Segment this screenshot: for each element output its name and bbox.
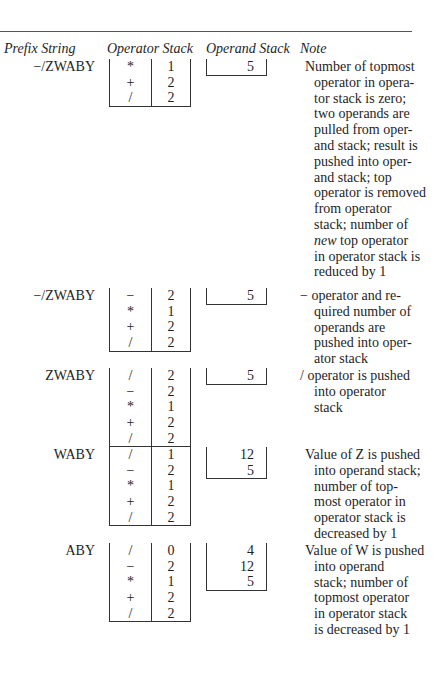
note-line: stack; number of: [300, 575, 441, 591]
prefix-string: −/ZWABY: [0, 288, 95, 304]
operand-stack: 12 5: [206, 447, 267, 479]
operand-value: 5: [207, 288, 266, 304]
operator-row: /0: [110, 543, 190, 559]
operand-stack: 5: [206, 288, 267, 305]
operator-symbol: +: [110, 494, 151, 510]
note-line: Value of Z is pushed: [300, 447, 441, 463]
note-line: ator stack: [300, 351, 441, 367]
step-note: / operator is pushed into operator stack: [300, 368, 441, 415]
operand-count: 0: [152, 543, 190, 559]
operand-count: 2: [152, 288, 190, 304]
note-line: Number of topmost: [300, 59, 441, 75]
operator-symbol: /: [110, 335, 151, 351]
operator-row: −2: [110, 384, 190, 400]
note-line: into operand stack;: [300, 463, 441, 479]
operator-symbol: −: [110, 384, 151, 400]
operand-value: 5: [207, 368, 266, 384]
operator-row: +2: [110, 75, 190, 91]
operator-stack: *1 +2 /2: [109, 59, 191, 107]
note-line: into operand: [300, 559, 441, 575]
note-line: stack: [300, 400, 441, 416]
operator-symbol: +: [110, 590, 151, 606]
operator-row: −2: [110, 288, 190, 304]
step-note: Number of topmost operator in opera- tor…: [300, 59, 441, 280]
operand-count: 1: [152, 478, 190, 494]
step-note: Value of W is pushed into operand stack;…: [300, 543, 441, 638]
operator-symbol: /: [110, 510, 151, 526]
operand-count: 1: [152, 304, 190, 320]
note-line: decreased by 1: [300, 526, 441, 542]
operand-count: 2: [152, 590, 190, 606]
note-line: / operator is pushed: [300, 368, 441, 384]
note-line: topmost operator: [300, 590, 441, 606]
operand-count: 2: [152, 90, 190, 106]
top-rule: [0, 31, 412, 32]
operand-count: 2: [152, 494, 190, 510]
note-line: from operator: [300, 201, 441, 217]
operator-row: +2: [110, 494, 190, 510]
operator-symbol: *: [110, 399, 151, 415]
operator-symbol: /: [110, 368, 151, 384]
operand-value: 12: [207, 559, 266, 575]
prefix-string: ABY: [0, 543, 95, 559]
note-line: operator in opera-: [300, 75, 441, 91]
note-line: is decreased by 1: [300, 622, 441, 638]
operator-row: /2: [110, 368, 190, 384]
operator-symbol: −: [110, 288, 151, 304]
header-operand-stack: Operand Stack: [206, 41, 290, 57]
operator-row: *1: [110, 59, 190, 75]
operand-count: 2: [152, 384, 190, 400]
note-line: and stack; result is: [300, 138, 441, 154]
note-line: stack; number of: [300, 217, 441, 233]
operator-symbol: *: [110, 574, 151, 590]
note-line: in operator stack is: [300, 249, 441, 265]
operator-row: *1: [110, 478, 190, 494]
note-line: and stack; top: [300, 170, 441, 186]
note-line: operands are: [300, 320, 441, 336]
operand-count: 2: [152, 463, 190, 479]
operator-symbol: *: [110, 304, 151, 320]
note-line: operator is removed: [300, 185, 441, 201]
note-line: reduced by 1: [300, 264, 441, 280]
operator-symbol: +: [110, 415, 151, 431]
note-line: most operator in: [300, 494, 441, 510]
operator-row: /2: [110, 510, 190, 526]
operator-row: *1: [110, 304, 190, 320]
operator-symbol: +: [110, 75, 151, 91]
operand-value: 5: [207, 59, 266, 75]
note-line: tor stack is zero;: [300, 91, 441, 107]
operand-value: 12: [207, 447, 266, 463]
note-line: operator stack is: [300, 510, 441, 526]
operator-row: /1: [110, 447, 190, 463]
step-note: − operator and re- quired number of oper…: [300, 288, 441, 367]
operator-stack: /0 −2 *1 +2 /2: [109, 543, 191, 622]
operand-count: 2: [152, 335, 190, 351]
operand-stack: 4 12 5: [206, 543, 267, 591]
note-line: pulled from oper-: [300, 122, 441, 138]
operator-symbol: /: [110, 543, 151, 559]
operator-stack: −2 *1 +2 /2: [109, 288, 191, 352]
operand-count: 2: [152, 368, 190, 384]
operand-value: 4: [207, 543, 266, 559]
operator-symbol: *: [110, 478, 151, 494]
note-line: quired number of: [300, 304, 441, 320]
emphasis-new: new: [314, 233, 337, 248]
operator-row: /2: [110, 431, 190, 447]
operand-count: 2: [152, 559, 190, 575]
operand-count: 2: [152, 415, 190, 431]
note-line: new top operator: [300, 233, 441, 249]
note-line: pushed into oper-: [300, 335, 441, 351]
operator-symbol: −: [110, 463, 151, 479]
operand-stack: 5: [206, 59, 267, 76]
operand-count: 2: [152, 319, 190, 335]
note-line: into operator: [300, 384, 441, 400]
prefix-string: WABY: [0, 447, 95, 463]
header-note: Note: [300, 41, 326, 57]
operand-count: 1: [152, 59, 190, 75]
prefix-string: −/ZWABY: [0, 59, 95, 75]
operand-value: 5: [207, 463, 266, 479]
operator-symbol: +: [110, 319, 151, 335]
operator-row: /2: [110, 606, 190, 622]
prefix-string: ZWABY: [0, 368, 95, 384]
operator-row: +2: [110, 415, 190, 431]
